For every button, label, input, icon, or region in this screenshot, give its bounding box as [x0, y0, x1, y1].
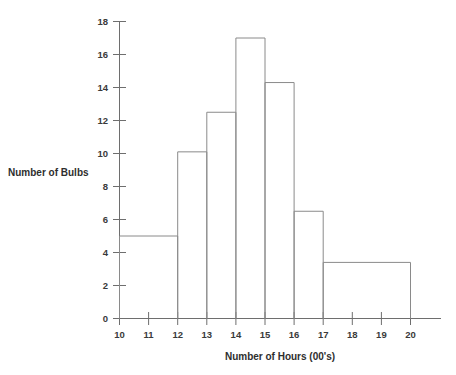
histogram-bar	[236, 38, 265, 319]
x-tick-label-10: 10	[114, 329, 125, 340]
y-tick-label-18: 18	[97, 16, 108, 27]
y-tick-label-16: 16	[97, 49, 108, 60]
histogram-bar	[207, 112, 236, 318]
x-tick-label-11: 11	[144, 329, 155, 340]
y-axis-title: Number of Bulbs	[8, 167, 89, 178]
y-tick-label-14: 14	[97, 82, 108, 93]
x-axis-title: Number of Hours (00's)	[225, 351, 335, 362]
histogram-bars	[120, 38, 411, 319]
histogram-page: 0 2 4 6 8 10 12 14 16 18 10	[0, 0, 456, 375]
y-axis-tick-labels: 0 2 4 6 8 10 12 14 16 18	[97, 16, 108, 324]
histogram-bar	[178, 152, 207, 319]
histogram-bar	[323, 262, 410, 318]
x-tick-label-15: 15	[260, 329, 271, 340]
x-tick-label-17: 17	[318, 329, 329, 340]
x-tick-label-18: 18	[347, 329, 358, 340]
x-tick-label-19: 19	[376, 329, 387, 340]
chart-axes	[120, 21, 442, 319]
y-tick-label-8: 8	[103, 181, 108, 192]
x-tick-label-12: 12	[172, 329, 183, 340]
x-tick-label-14: 14	[231, 329, 242, 340]
histogram-chart: 0 2 4 6 8 10 12 14 16 18 10	[0, 0, 456, 375]
y-tick-label-2: 2	[103, 280, 108, 291]
histogram-bar	[294, 211, 323, 318]
x-tick-label-16: 16	[289, 329, 300, 340]
x-tick-label-13: 13	[202, 329, 213, 340]
y-tick-label-0: 0	[103, 313, 108, 324]
x-tick-label-20: 20	[405, 329, 416, 340]
y-tick-label-10: 10	[97, 148, 108, 159]
histogram-bar	[120, 236, 178, 319]
y-tick-label-4: 4	[103, 247, 109, 258]
histogram-bar	[265, 83, 294, 319]
y-tick-label-6: 6	[103, 214, 108, 225]
x-axis-tick-labels: 10 11 12 13 14 15 16 17 18 19 20	[114, 329, 416, 340]
y-tick-label-12: 12	[97, 115, 108, 126]
